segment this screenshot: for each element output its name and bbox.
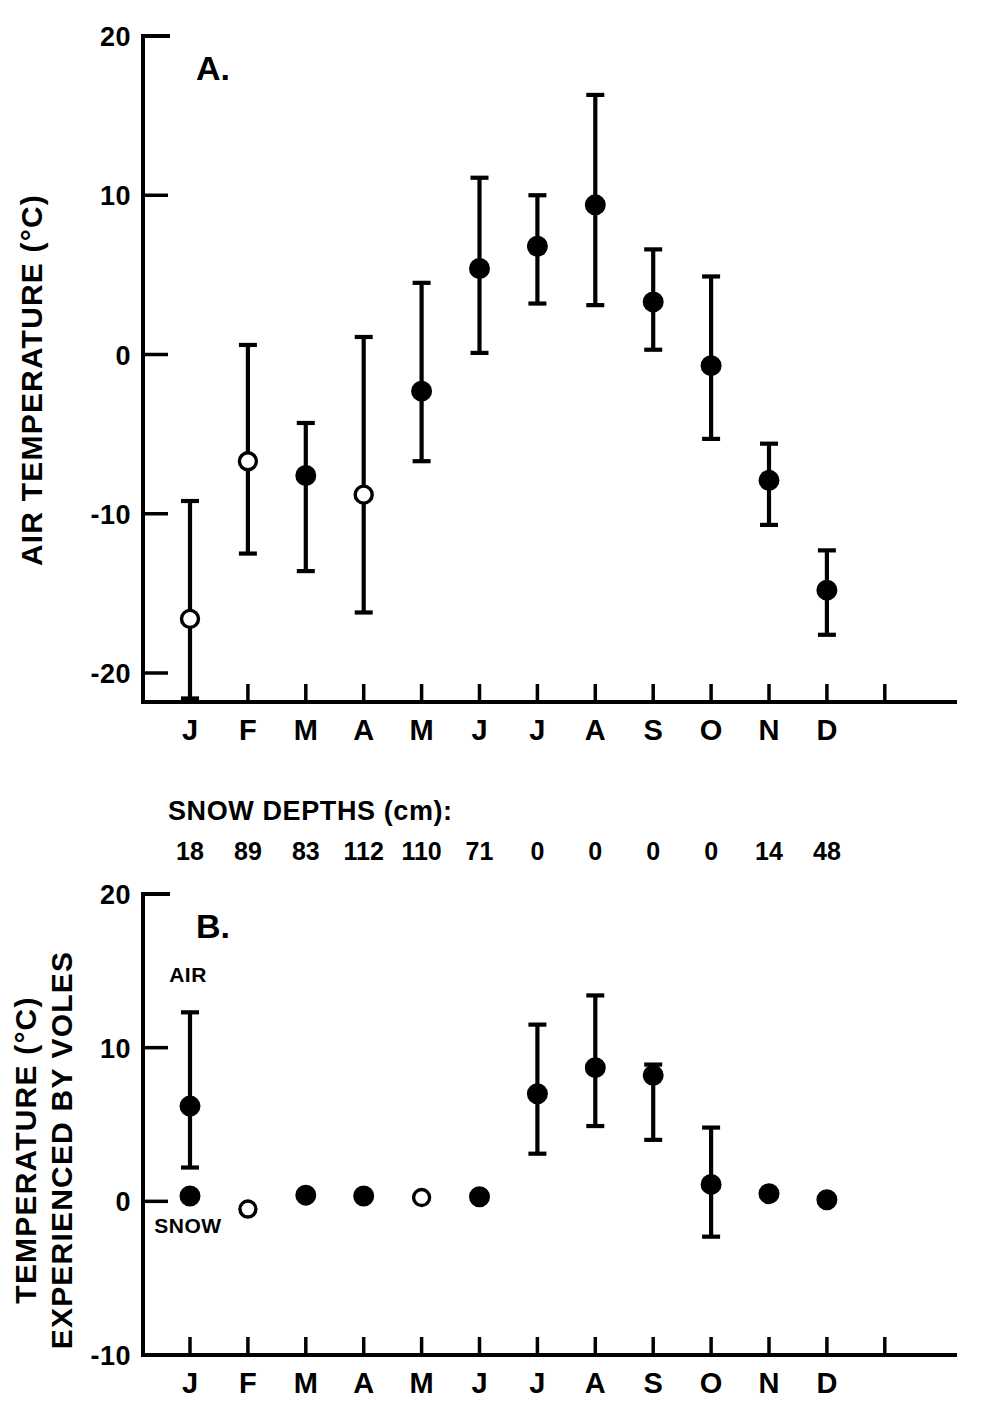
snow-depth-value: 0 [588,837,602,865]
marker-open-circle [355,486,372,503]
annotation-snow: SNOW [154,1214,221,1237]
marker-filled-circle [470,1187,489,1206]
panel-a-axes [143,36,955,702]
panel-b-datapoint [296,1186,315,1205]
panel-b-xtick-label: S [644,1367,663,1399]
marker-filled-circle [817,581,836,600]
panel-b-datapoint [470,1187,489,1206]
panel-a-xtick-label: D [816,714,837,746]
marker-open-circle [182,610,199,627]
snow-depth-value: 18 [176,837,204,865]
panel-b-xtick-label: A [353,1367,374,1399]
panel-b-ylabel-line1: TEMPERATURE (°C) [9,996,42,1303]
panel-a-datapoint [355,337,373,613]
panel-b-datapoint [414,1189,430,1205]
snow-depth-value: 0 [704,837,718,865]
marker-filled-circle [702,1175,721,1194]
panel-a-xtick-label: F [239,714,257,746]
panel-a-datapoint [239,345,257,554]
annotation-air: AIR [169,963,207,986]
panel-a-xtick-label: O [700,714,723,746]
marker-open-circle [240,1201,256,1217]
panel-b-xtick-label: O [700,1367,723,1399]
panel-b-ytick-label: 0 [115,1187,131,1217]
panel-a-datapoint [296,423,315,571]
marker-filled-circle [528,1084,547,1103]
panel-b-datapoint [528,1025,547,1154]
panel-b: 20100-10JFMAMJJASONDB.TEMPERATURE (°C)EX… [9,880,955,1399]
marker-filled-circle [412,382,431,401]
marker-filled-circle [470,259,489,278]
panel-a-xtick-label: M [294,714,318,746]
snow-depth-value: 71 [466,837,494,865]
panel-b-xtick-label: J [182,1367,198,1399]
marker-filled-circle [760,1184,779,1203]
panel-b-axes [143,894,955,1355]
panel-a-datapoint [817,550,836,634]
panel-a-datapoint [412,283,431,461]
panel-a-xtick-label: N [759,714,780,746]
panel-b-ytick-label: 10 [100,1034,131,1064]
marker-filled-circle [528,237,547,256]
snow-depth-value: 112 [344,837,384,865]
panel-a-datapoint [528,195,547,303]
snow-depth-value: 83 [292,837,320,865]
panel-a-letter: A. [196,49,230,87]
panel-b-xtick-label: M [410,1367,434,1399]
panel-b-datapoint [586,995,605,1126]
marker-filled-circle [586,195,605,214]
panel-b-ylabel-line2: EXPERIENCED BY VOLES [45,951,78,1350]
panel-b-xtick-label: D [816,1367,837,1399]
panel-b-datapoint [354,1186,373,1205]
marker-open-circle [414,1189,430,1205]
marker-open-circle [239,453,256,470]
panel-b-ytick-label: 20 [100,880,131,910]
panel-b-xtick-label: M [294,1367,318,1399]
panel-a-xtick-label: A [585,714,606,746]
panel-b-xtick-label: F [239,1367,257,1399]
panel-a-xtick-label: S [644,714,663,746]
panel-b-xtick-label: J [471,1367,487,1399]
figure-root: 20100-10-20JFMAMJJASONDA.AIR TEMPERATURE… [0,0,984,1412]
snow-depths-header: SNOW DEPTHS (cm): [168,796,453,826]
panel-a-datapoint [181,501,199,698]
panel-b-datapoint [181,1186,200,1205]
marker-filled-circle [644,292,663,311]
panel-a-xtick-label: A [353,714,374,746]
snow-depths-block: SNOW DEPTHS (cm):1889831121107100001448 [168,796,841,865]
panel-b-xtick-label: A [585,1367,606,1399]
marker-filled-circle [296,1186,315,1205]
panel-a-xtick-label: M [410,714,434,746]
panel-a-xtick-label: J [182,714,198,746]
panel-b-datapoint [240,1201,256,1217]
panel-a-datapoint [586,95,605,305]
marker-filled-circle [586,1058,605,1077]
panel-b-air-datapoint [181,1012,200,1167]
panel-a-xtick-label: J [471,714,487,746]
snow-depth-value: 14 [755,837,783,865]
marker-filled-circle [760,471,779,490]
panel-b-xtick-label: N [759,1367,780,1399]
panel-b-xtick-label: J [529,1367,545,1399]
panel-a-ytick-label: -10 [90,500,131,530]
panel-a-datapoint [470,178,489,353]
marker-filled-circle [354,1186,373,1205]
marker-filled-circle [644,1066,663,1085]
panel-a: 20100-10-20JFMAMJJASONDA.AIR TEMPERATURE… [15,22,955,746]
panel-a-datapoint [760,444,779,525]
panel-a-ytick-label: -20 [90,659,131,689]
panel-b-ytick-label: -10 [90,1341,131,1371]
figure-svg: 20100-10-20JFMAMJJASONDA.AIR TEMPERATURE… [0,0,984,1412]
marker-filled-circle [181,1186,200,1205]
marker-filled-circle [296,466,315,485]
marker-filled-circle [181,1097,200,1116]
panel-a-ylabel: AIR TEMPERATURE (°C) [15,194,48,566]
panel-b-datapoint [760,1184,779,1203]
snow-depth-value: 0 [646,837,660,865]
panel-a-ytick-label: 20 [100,22,131,52]
panel-a-datapoint [644,249,663,349]
panel-b-datapoint [644,1065,663,1140]
panel-a-ytick-label: 10 [100,181,131,211]
panel-b-datapoint [702,1128,721,1237]
snow-depth-value: 0 [530,837,544,865]
